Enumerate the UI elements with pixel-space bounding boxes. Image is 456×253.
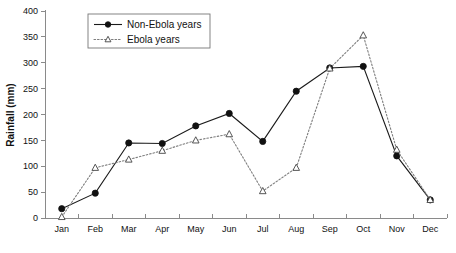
data-point-marker xyxy=(293,88,299,94)
y-axis-tick-label: 400 xyxy=(23,6,38,16)
y-axis-tick-label: 50 xyxy=(28,187,38,197)
series-line-1 xyxy=(62,66,431,208)
data-point-marker xyxy=(293,164,300,170)
x-axis-tick-label: Sep xyxy=(322,224,338,234)
x-axis-tick-label: Apr xyxy=(155,224,169,234)
y-axis-tick-label: 200 xyxy=(23,110,38,120)
data-point-marker xyxy=(360,32,367,38)
data-point-marker xyxy=(226,131,233,137)
x-axis-tick-label: Jul xyxy=(257,224,269,234)
y-axis-tick-label: 300 xyxy=(23,58,38,68)
y-axis-tick-label: 100 xyxy=(23,161,38,171)
chart-legend: Non-Ebola yearsEbola years xyxy=(88,14,210,48)
y-axis-title: Rainfall (mm) xyxy=(5,83,16,146)
data-point-marker xyxy=(259,187,266,193)
data-point-marker xyxy=(159,140,165,146)
chart-canvas: 050100150200250300350400 JanFebMarAprMay… xyxy=(0,0,456,253)
x-axis-tick-label: Jan xyxy=(54,224,69,234)
data-point-marker xyxy=(92,190,98,196)
data-point-marker xyxy=(360,63,366,69)
data-point-marker xyxy=(193,123,199,129)
data-series-group xyxy=(58,32,433,220)
legend-entry-label: Non-Ebola years xyxy=(127,19,201,30)
x-axis-tick-label: Aug xyxy=(288,224,304,234)
data-point-marker xyxy=(92,164,99,170)
y-axis-tick-label: 0 xyxy=(33,213,38,223)
data-point-marker xyxy=(126,140,132,146)
x-axis-tick-label: Jun xyxy=(222,224,237,234)
x-axis-tick-label: Dec xyxy=(422,224,439,234)
data-point-marker xyxy=(226,110,232,116)
legend-marker xyxy=(105,22,111,28)
x-axis-tick-label: Mar xyxy=(121,224,137,234)
x-axis-tick-label: May xyxy=(187,224,205,234)
data-point-marker xyxy=(260,138,266,144)
x-axis-tick-label: Nov xyxy=(389,224,406,234)
data-point-marker xyxy=(59,206,65,212)
x-axis-tick-label: Feb xyxy=(87,224,103,234)
data-point-marker xyxy=(394,153,400,159)
x-axis-tick-label: Oct xyxy=(356,224,371,234)
legend-entry-label: Ebola years xyxy=(127,34,180,45)
series-line-2 xyxy=(62,35,431,217)
y-axis-tick-label: 350 xyxy=(23,32,38,42)
y-axis-tick-label: 250 xyxy=(23,84,38,94)
x-axis: JanFebMarAprMayJunJulAugSepOctNovDec xyxy=(45,214,447,234)
rainfall-line-chart: 050100150200250300350400 JanFebMarAprMay… xyxy=(0,0,456,253)
y-axis-tick-label: 150 xyxy=(23,136,38,146)
y-axis: 050100150200250300350400 xyxy=(23,6,45,223)
